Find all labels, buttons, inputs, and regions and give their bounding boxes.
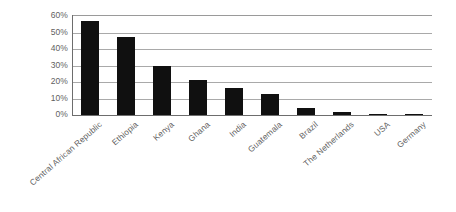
x-axis-line — [72, 115, 432, 116]
y-axis-tick-label: 30% — [28, 61, 68, 70]
x-axis-category-label: Germany — [395, 120, 427, 149]
y-axis-tick: 40% — [28, 49, 68, 50]
x-axis-category-label: Central African Republic — [28, 120, 103, 187]
bar — [261, 94, 279, 115]
x-axis-category-label: Brazil — [298, 120, 320, 140]
bar — [297, 108, 315, 115]
bar-chart: 0%10%20%30%40%50%60% Central African Rep… — [0, 0, 456, 212]
bar — [405, 114, 423, 115]
y-axis-tick-label: 50% — [28, 28, 68, 37]
y-axis-tick-label: 20% — [28, 77, 68, 86]
x-axis-category-label: India — [228, 120, 248, 139]
bar — [153, 66, 171, 115]
y-axis-tick-label: 40% — [28, 44, 68, 53]
y-axis-tick-label: 60% — [28, 11, 68, 20]
y-axis-tick: 20% — [28, 82, 68, 83]
x-axis-category-label: Ethiopia — [110, 120, 139, 147]
y-axis-tick-label: 0% — [28, 110, 68, 119]
bar — [117, 37, 135, 115]
x-axis-category-label: Kenya — [152, 120, 176, 142]
bar-series — [72, 16, 432, 115]
y-axis-tick: 50% — [28, 33, 68, 34]
y-axis-tick: 60% — [28, 16, 68, 17]
bar — [81, 21, 99, 115]
bar — [369, 114, 387, 115]
x-axis-category-label: USA — [373, 120, 392, 138]
x-axis-category-label: Ghana — [187, 120, 212, 143]
y-axis-tick: 10% — [28, 99, 68, 100]
y-axis-tick-label: 10% — [28, 94, 68, 103]
y-axis-tick: 0% — [28, 115, 68, 116]
y-axis-tick: 30% — [28, 66, 68, 67]
x-axis-category-label: Guatemala — [246, 120, 283, 154]
x-axis-category-label: The Netherlands — [302, 120, 355, 168]
bar — [333, 112, 351, 115]
bar — [189, 80, 207, 115]
bar — [225, 88, 243, 115]
